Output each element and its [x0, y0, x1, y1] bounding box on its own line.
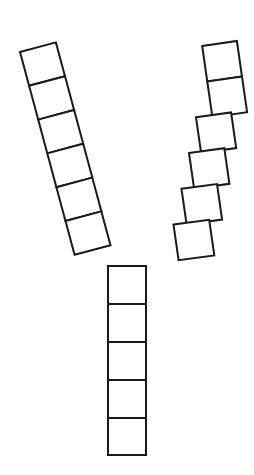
right-cell-R3: [196, 113, 236, 153]
stem-cell-S3: [108, 342, 146, 380]
figure-canvas: [0, 0, 254, 475]
right-cell-R5: [182, 184, 223, 224]
stem-cell-S2: [108, 304, 146, 342]
y-shape-diagram: [0, 0, 254, 475]
right-cell-R1: [202, 41, 242, 82]
stem-cell-S4: [108, 380, 146, 418]
right-cell-R6: [174, 220, 215, 260]
stem-cell-S5: [108, 418, 146, 455]
right-cell-R4: [189, 148, 229, 188]
right-cell-R2: [207, 77, 247, 118]
stem-cell-S1: [108, 266, 146, 304]
stem-branch: [108, 266, 146, 455]
